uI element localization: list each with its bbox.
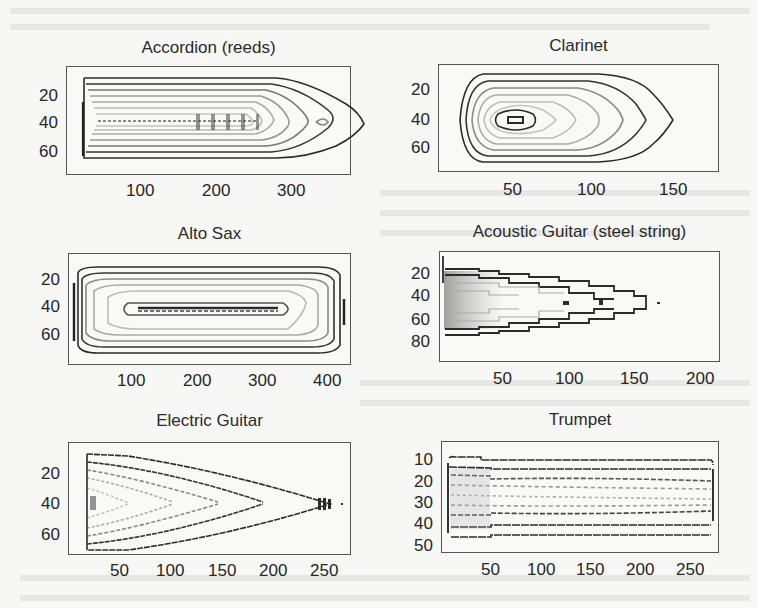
contour-plot (441, 441, 719, 553)
panel-title: Clarinet (438, 36, 719, 56)
x-tick-label: 400 (313, 371, 341, 391)
x-tick-label: 100 (527, 560, 555, 580)
contour-plot (439, 251, 720, 362)
contour-plot (438, 64, 719, 172)
y-tick-label: 20 (414, 472, 433, 492)
x-tick-label: 150 (208, 561, 236, 581)
y-tick-label: 40 (41, 297, 60, 317)
y-tick-label: 60 (411, 310, 430, 330)
contour-plot (68, 442, 351, 555)
y-tick-label: 60 (41, 525, 60, 545)
contour-plot (66, 66, 351, 175)
figure: Accordion (reeds) (0, 0, 758, 608)
y-tick-label: 80 (411, 332, 430, 352)
x-tick-label: 200 (626, 560, 654, 580)
x-tick-label: 150 (659, 180, 687, 200)
x-tick-label: 100 (126, 181, 154, 201)
y-tick-label: 40 (411, 286, 430, 306)
x-tick-label: 50 (493, 369, 512, 389)
y-tick-label: 50 (414, 536, 433, 556)
y-tick-label: 60 (39, 142, 58, 162)
x-tick-label: 50 (110, 561, 129, 581)
panel-title: Alto Sax (68, 224, 351, 244)
y-tick-label: 20 (411, 264, 430, 284)
y-tick-label: 60 (411, 138, 430, 158)
x-tick-label: 100 (117, 371, 145, 391)
y-tick-label: 10 (414, 450, 433, 470)
x-tick-label: 100 (156, 561, 184, 581)
x-tick-label: 200 (202, 181, 230, 201)
x-tick-label: 50 (481, 560, 500, 580)
x-tick-label: 150 (620, 369, 648, 389)
x-tick-label: 100 (577, 180, 605, 200)
y-tick-label: 30 (414, 493, 433, 513)
panel-title: Acoustic Guitar (steel string) (439, 222, 720, 242)
y-tick-label: 20 (411, 80, 430, 100)
y-tick-label: 40 (414, 514, 433, 534)
y-tick-label: 20 (41, 464, 60, 484)
panel-title: Trumpet (441, 410, 719, 430)
y-tick-label: 20 (39, 86, 58, 106)
y-tick-label: 60 (41, 325, 60, 345)
x-tick-label: 200 (183, 371, 211, 391)
y-tick-label: 40 (41, 494, 60, 514)
x-tick-label: 100 (555, 369, 583, 389)
panel-title: Electric Guitar (68, 411, 351, 431)
y-tick-label: 40 (39, 113, 58, 133)
contour-plot (68, 253, 351, 365)
x-tick-label: 50 (503, 180, 522, 200)
x-tick-label: 250 (676, 560, 704, 580)
y-tick-label: 20 (41, 270, 60, 290)
x-tick-label: 150 (576, 560, 604, 580)
x-tick-label: 200 (259, 561, 287, 581)
x-tick-label: 300 (248, 371, 276, 391)
y-tick-label: 40 (411, 110, 430, 130)
panel-title: Accordion (reeds) (66, 38, 351, 58)
x-tick-label: 250 (310, 561, 338, 581)
x-tick-label: 300 (277, 181, 305, 201)
x-tick-label: 200 (686, 369, 714, 389)
